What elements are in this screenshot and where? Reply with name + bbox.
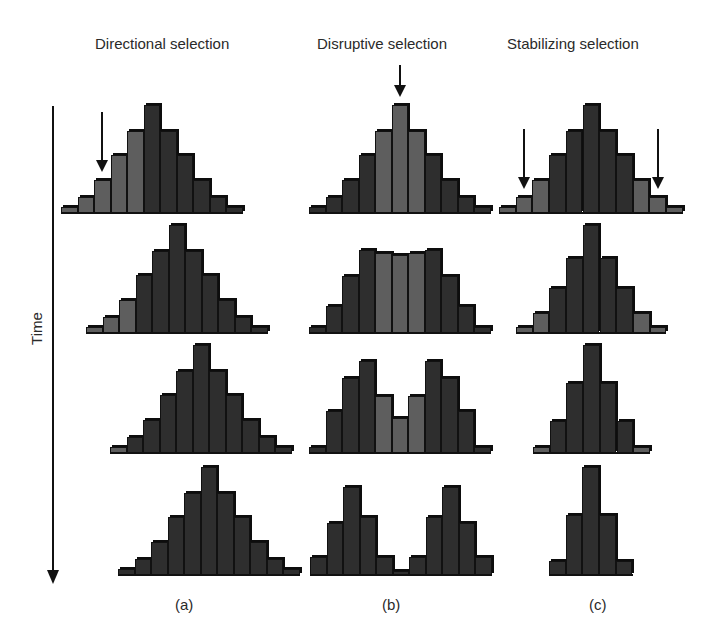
histogram-bar [566, 383, 583, 453]
histogram-baseline [118, 574, 300, 576]
histogram-bar [135, 559, 152, 575]
histogram-bar [359, 361, 376, 453]
histogram-bar [426, 517, 443, 575]
disruptive-histogram-t4 [310, 445, 492, 575]
directional-histogram-t1 [61, 83, 243, 213]
histogram-bar [375, 253, 392, 333]
stabilizing-histogram-t3 [533, 323, 650, 453]
histogram-bar [144, 105, 161, 213]
histogram-bar [160, 131, 177, 213]
selection-arrow-icon [399, 65, 401, 87]
histogram-bar [310, 557, 327, 575]
histogram-baseline [310, 574, 492, 576]
directional-selection-title: Directional selection [95, 35, 229, 52]
histogram-bar [600, 383, 617, 453]
histogram-bar [442, 487, 459, 575]
histogram-bar [582, 467, 599, 575]
histogram-bar [342, 378, 359, 453]
selection-arrow-icon [657, 129, 659, 179]
histogram-bar [201, 467, 218, 575]
histogram-bar [392, 105, 409, 213]
histogram-bar [193, 345, 210, 453]
disruptive-histogram-t3 [309, 323, 491, 453]
histogram-bar [392, 255, 409, 333]
histogram-bar [566, 131, 583, 213]
panel-label-b: (b) [382, 596, 400, 613]
disruptive-selection-title: Disruptive selection [317, 35, 447, 52]
histogram-bar [583, 225, 600, 333]
histogram-bar [408, 253, 425, 333]
histogram-bar [425, 250, 442, 333]
disruptive-histogram-t2 [309, 203, 491, 333]
panel-label-a: (a) [175, 596, 193, 613]
histogram-bar [169, 225, 186, 333]
histogram-bar [185, 251, 202, 333]
histogram-bar [234, 517, 251, 575]
histogram-bar [267, 559, 284, 575]
directional-histogram-t2 [86, 203, 268, 333]
histogram-bar [359, 250, 376, 333]
time-axis-arrow [52, 106, 54, 574]
directional-histogram-t4 [118, 445, 300, 575]
histogram-bar [459, 523, 476, 575]
histogram-bar [168, 517, 185, 575]
histogram-bar [583, 105, 600, 213]
selection-arrow-icon [101, 112, 103, 162]
histogram-bar [583, 345, 600, 453]
histogram-bar [209, 371, 226, 453]
histogram-bar [409, 557, 426, 575]
histogram-bar [360, 517, 377, 575]
histogram-bar [184, 493, 201, 575]
histogram-bar [475, 557, 492, 575]
histogram-bar [376, 557, 393, 575]
histogram-bar [217, 493, 234, 575]
histogram-bar [549, 561, 566, 575]
histogram-bar [566, 515, 583, 575]
histogram-baseline [549, 574, 633, 576]
histogram-bar [425, 361, 442, 453]
histogram-bar [343, 487, 360, 575]
stabilizing-selection-title: Stabilizing selection [507, 35, 639, 52]
histogram-bar [408, 131, 425, 213]
histogram-bar [600, 258, 617, 333]
histogram-bar [152, 251, 169, 333]
disruptive-histogram-t1 [309, 83, 491, 213]
panel-label-c: (c) [589, 596, 607, 613]
histogram-bar [151, 542, 168, 575]
directional-histogram-t3 [110, 323, 292, 453]
selection-arrow-icon [523, 129, 525, 179]
histogram-bar [327, 523, 344, 575]
histogram-bar [176, 371, 193, 453]
histogram-bar [616, 561, 633, 575]
histogram-bar [599, 515, 616, 575]
histogram-bar [250, 542, 267, 575]
histogram-bar [566, 258, 583, 333]
time-axis-label: Time [28, 312, 45, 345]
histogram-bar [599, 131, 616, 213]
histogram-bar [375, 131, 392, 213]
histogram-bar [127, 131, 144, 213]
histogram-bar [441, 378, 458, 453]
stabilizing-histogram-t4 [549, 445, 633, 575]
stabilizing-histogram-t2 [516, 203, 666, 333]
stabilizing-histogram-t1 [499, 83, 683, 213]
